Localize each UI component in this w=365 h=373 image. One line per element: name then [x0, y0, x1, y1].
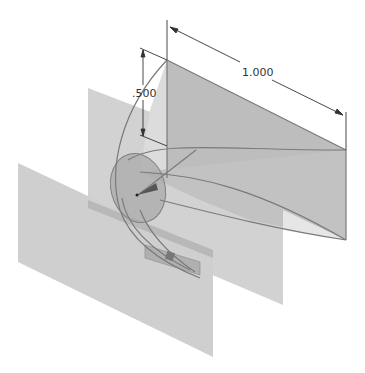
dimension-height-label: .500 [132, 87, 157, 100]
origin-point [136, 194, 139, 197]
cad-viewport[interactable]: 1.000 .500 [0, 0, 365, 373]
dimension-width-label: 1.000 [242, 66, 274, 79]
